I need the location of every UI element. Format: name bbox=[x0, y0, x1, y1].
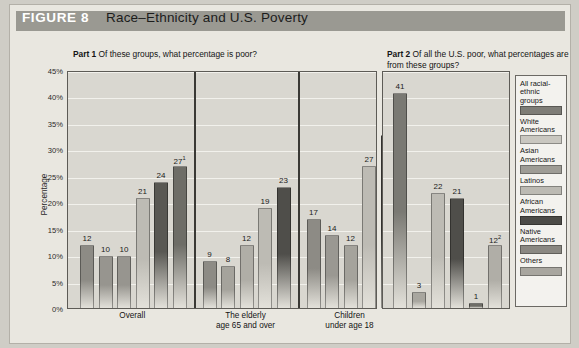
bar-value-label: 3 bbox=[417, 281, 421, 290]
legend-item-swatch bbox=[520, 245, 562, 254]
gridline bbox=[68, 72, 376, 73]
bar-value-label: 1 bbox=[474, 292, 478, 301]
bar-value-label: 12 bbox=[83, 234, 92, 243]
bar: 12 bbox=[80, 245, 94, 308]
figure-number-label: FIGURE 8 bbox=[22, 10, 89, 25]
bar: 3 bbox=[412, 292, 426, 308]
legend-item-swatch bbox=[520, 135, 562, 144]
bar-value-label: 21 bbox=[453, 187, 462, 196]
legend-item: Others bbox=[520, 257, 562, 275]
part2-plot-area: 41322211122 bbox=[382, 71, 510, 309]
bar: 19 bbox=[258, 208, 272, 308]
legend-item: White Americans bbox=[520, 118, 562, 145]
part2-caption-bold: Part 2 bbox=[387, 49, 410, 59]
legend-item-swatch bbox=[520, 216, 562, 225]
bar-value-label: 41 bbox=[396, 82, 405, 91]
part2-caption-text: Of all the U.S. poor, what percentages a… bbox=[387, 49, 569, 70]
bar: 24 bbox=[154, 182, 168, 308]
bar: 22 bbox=[431, 193, 445, 308]
bar: 10 bbox=[99, 256, 113, 308]
legend-item: Native Americans bbox=[520, 228, 562, 255]
bar: 17 bbox=[307, 219, 321, 308]
group-separator bbox=[298, 72, 300, 308]
bar-value-label: 23 bbox=[279, 176, 288, 185]
gridline bbox=[383, 72, 509, 73]
legend-item: African Americans bbox=[520, 198, 562, 225]
gridline bbox=[68, 178, 376, 179]
bar-value-label: 10 bbox=[101, 245, 110, 254]
bar-value-label: 8 bbox=[226, 255, 230, 264]
bar: 21 bbox=[136, 198, 150, 308]
bar-value-label: 17 bbox=[309, 208, 318, 217]
bar: 1 bbox=[469, 303, 483, 308]
legend-item: All racial-ethnic groups bbox=[520, 80, 562, 115]
bar: 41 bbox=[393, 93, 407, 308]
gridline bbox=[68, 151, 376, 152]
y-axis-tick: 15% bbox=[48, 225, 63, 234]
legend-item-swatch bbox=[520, 106, 562, 115]
bar-value-label: 19 bbox=[261, 197, 270, 206]
bar: 122 bbox=[488, 245, 502, 308]
legend-item: Latinos bbox=[520, 177, 562, 195]
footnote-marker: 1 bbox=[182, 155, 185, 161]
bar: 12 bbox=[344, 245, 358, 308]
group-label: The elderlyage 65 and over bbox=[201, 311, 291, 331]
bar: 271 bbox=[173, 166, 187, 308]
bar: 9 bbox=[203, 261, 217, 308]
y-axis-tick: 10% bbox=[48, 252, 63, 261]
legend-item-label: Others bbox=[520, 257, 562, 265]
legend: All racial-ethnic groupsWhite AmericansA… bbox=[515, 75, 567, 307]
figure-title: Race–Ethnicity and U.S. Poverty bbox=[106, 10, 308, 25]
bar: 10 bbox=[117, 256, 131, 308]
bar-value-label: 14 bbox=[328, 224, 337, 233]
bar-value-label: 21 bbox=[138, 187, 147, 196]
gridline bbox=[68, 125, 376, 126]
bar-value-label: 271 bbox=[173, 155, 185, 166]
part1-plot-area: 1210102124271981219231714122733 bbox=[67, 71, 377, 309]
legend-item-label: All racial-ethnic groups bbox=[520, 80, 562, 105]
footnote-marker: 2 bbox=[498, 234, 501, 240]
bar: 14 bbox=[325, 235, 339, 308]
legend-item-label: White Americans bbox=[520, 118, 562, 135]
bar: 27 bbox=[362, 166, 376, 308]
bar-value-label: 22 bbox=[434, 182, 443, 191]
bar: 12 bbox=[240, 245, 254, 308]
figure-container: FIGURE 8 Race–Ethnicity and U.S. Poverty… bbox=[9, 4, 571, 344]
part1-caption: Part 1 Of these groups, what percentage … bbox=[73, 49, 263, 60]
bar-value-label: 27 bbox=[365, 155, 374, 164]
legend-item-label: Asian Americans bbox=[520, 147, 562, 164]
y-axis-tick: 5% bbox=[52, 278, 63, 287]
legend-item-swatch bbox=[520, 267, 562, 276]
y-axis-tick: 40% bbox=[48, 93, 63, 102]
part2-caption: Part 2 Of all the U.S. poor, what percen… bbox=[387, 49, 577, 70]
y-axis: Percentage 45%40%35%30%25%20%15%10%5%0% bbox=[30, 71, 66, 309]
bar-value-label: 24 bbox=[157, 171, 166, 180]
gridline bbox=[68, 98, 376, 99]
group-separator bbox=[194, 72, 196, 308]
bar: 23 bbox=[277, 187, 291, 308]
gridline bbox=[68, 204, 376, 205]
legend-item-swatch bbox=[520, 165, 562, 174]
group-label: Overall bbox=[87, 311, 177, 321]
group-label: Childrenunder age 18 bbox=[305, 311, 395, 331]
y-axis-tick: 35% bbox=[48, 119, 63, 128]
y-axis-tick: 30% bbox=[48, 146, 63, 155]
y-axis-tick: 45% bbox=[48, 67, 63, 76]
bar-value-label: 12 bbox=[242, 234, 251, 243]
legend-item-label: Latinos bbox=[520, 177, 562, 185]
legend-item-label: Native Americans bbox=[520, 228, 562, 245]
y-axis-tick: 0% bbox=[52, 305, 63, 314]
bar: 8 bbox=[221, 266, 235, 308]
bar-value-label: 12 bbox=[346, 234, 355, 243]
legend-item: Asian Americans bbox=[520, 147, 562, 174]
bar-value-label: 9 bbox=[207, 250, 211, 259]
bar-value-label: 10 bbox=[120, 245, 129, 254]
bar-value-label: 122 bbox=[489, 234, 501, 245]
y-axis-tick: 25% bbox=[48, 172, 63, 181]
part1-caption-bold: Part 1 bbox=[73, 49, 96, 59]
part1-caption-text: Of these groups, what percentage is poor… bbox=[99, 49, 257, 59]
legend-item-label: African Americans bbox=[520, 198, 562, 215]
legend-item-swatch bbox=[520, 186, 562, 195]
bar: 21 bbox=[450, 198, 464, 308]
y-axis-tick: 20% bbox=[48, 199, 63, 208]
